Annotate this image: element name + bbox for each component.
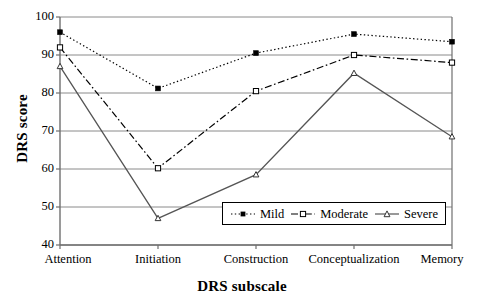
x-axis-title: DRS subscale <box>0 278 484 295</box>
series-line-mild <box>60 32 452 88</box>
chart-container: DRS score 100908070605040 AttentionIniti… <box>0 0 484 305</box>
legend-entry-moderate: Moderate <box>290 208 368 220</box>
x-tick-label: Construction <box>224 252 289 266</box>
data-point-severe <box>57 63 63 68</box>
data-point-severe <box>351 70 357 75</box>
legend-swatch-moderate <box>290 208 316 220</box>
data-point-moderate <box>155 166 160 171</box>
legend-swatch-severe <box>374 208 400 220</box>
x-tick-label: Memory <box>420 252 463 266</box>
x-tick-label: Conceptualization <box>309 252 400 266</box>
series-lines <box>60 32 452 218</box>
data-point-moderate <box>351 52 356 57</box>
data-point-mild <box>254 51 259 56</box>
legend-entry-severe: Severe <box>374 208 438 220</box>
series-markers <box>57 30 455 221</box>
legend-swatch-mild <box>230 208 256 220</box>
legend-label: Moderate <box>320 208 368 220</box>
data-point-moderate <box>253 89 258 94</box>
x-axis-tick-labels: AttentionInitiationConstructionConceptua… <box>0 252 484 272</box>
data-point-mild <box>450 39 455 44</box>
legend-label: Mild <box>260 208 284 220</box>
series-line-moderate <box>60 47 452 168</box>
data-point-moderate <box>57 45 62 50</box>
data-point-mild <box>156 86 161 91</box>
data-point-mild <box>58 30 63 35</box>
legend-label: Severe <box>404 208 438 220</box>
chart-legend: MildModerateSevere <box>222 202 446 225</box>
data-point-moderate <box>449 60 454 65</box>
legend-entry-mild: Mild <box>230 208 284 220</box>
x-tick-label: Initiation <box>135 252 181 266</box>
x-tick-label: Attention <box>44 252 91 266</box>
data-point-mild <box>352 32 357 37</box>
data-point-severe <box>449 134 455 139</box>
